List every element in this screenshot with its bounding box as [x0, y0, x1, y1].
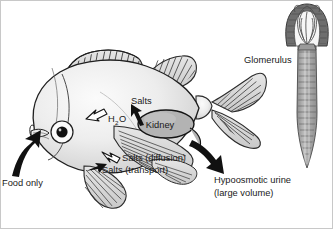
label-urine-line2: (large volume)	[214, 188, 273, 198]
label-kidney: Kidney	[146, 120, 175, 130]
label-urine-line1: Hypoosmotic urine	[214, 175, 291, 185]
label-h2o-h: H	[108, 114, 115, 124]
label-salts: Salts	[131, 96, 152, 106]
label-salts-transport: Salts (transport)	[102, 165, 168, 175]
label-food-only: Food only	[2, 178, 43, 188]
eye	[51, 121, 73, 143]
osmoregulation-figure: Food only H 2 O Salts Salts (diffusion) …	[0, 0, 333, 229]
figure-canvas: Food only H 2 O Salts Salts (diffusion) …	[0, 0, 333, 229]
label-glomerulus: Glomerulus	[244, 55, 292, 65]
label-h2o-o: O	[119, 114, 126, 124]
label-salts-diffusion: Salts (diffusion)	[122, 153, 186, 163]
